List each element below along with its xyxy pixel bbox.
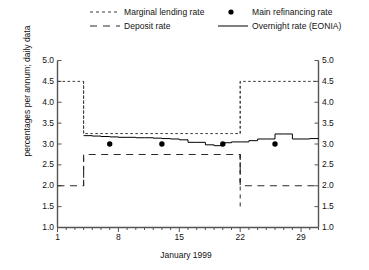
y-tick-label-left: 1.0 <box>28 223 54 231</box>
x-tick-label: 29 <box>289 232 313 242</box>
series-deposit-rate <box>58 154 319 185</box>
main-refinancing-rate-point <box>107 141 112 146</box>
x-tick-label: 8 <box>106 232 130 242</box>
y-tick-label-right: 4.5 <box>322 77 348 85</box>
y-tick-label-left: 3.5 <box>28 119 54 127</box>
x-tick-label: 15 <box>167 232 191 242</box>
y-tick-label-right: 2.0 <box>322 181 348 189</box>
interest-rate-chart: Marginal lending rate Deposit rate Main … <box>0 0 369 270</box>
x-tick-label: 1 <box>46 232 70 242</box>
x-tick-label: 22 <box>228 232 252 242</box>
plot-area: percentages per annum; daily data Januar… <box>0 0 369 270</box>
y-tick-label-right: 4.0 <box>322 98 348 106</box>
y-tick-label-right: 2.5 <box>322 160 348 168</box>
series-overnight-rate-eonia- <box>84 134 319 146</box>
y-tick-label-right: 5.0 <box>322 56 348 64</box>
plot-canvas <box>0 0 369 270</box>
y-tick-label-left: 3.0 <box>28 140 54 148</box>
y-tick-label-left: 5.0 <box>28 56 54 64</box>
y-tick-label-right: 1.0 <box>322 223 348 231</box>
y-tick-label-left: 4.5 <box>28 77 54 85</box>
series-marginal-lending-rate <box>58 81 319 133</box>
y-tick-label-left: 2.0 <box>28 181 54 189</box>
y-tick-label-left: 4.0 <box>28 98 54 106</box>
main-refinancing-rate-point <box>159 141 164 146</box>
y-tick-label-right: 1.5 <box>322 202 348 210</box>
y-tick-label-right: 3.5 <box>322 119 348 127</box>
main-refinancing-rate-point <box>272 141 277 146</box>
y-tick-label-left: 1.5 <box>28 202 54 210</box>
y-tick-label-left: 2.5 <box>28 160 54 168</box>
y-tick-label-right: 3.0 <box>322 140 348 148</box>
main-refinancing-rate-point <box>220 141 225 146</box>
